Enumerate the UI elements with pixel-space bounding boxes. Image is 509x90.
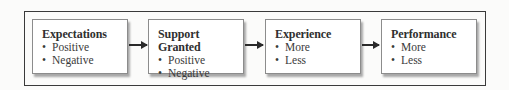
box-item: •Less [391,54,476,67]
bullet-icon: • [275,54,285,67]
arrow-right-icon [362,44,379,46]
box-expectations: Expectations •Positive •Negative [32,19,128,74]
box-title: Performance [391,28,476,41]
box-performance: Performance •More •Less [381,19,477,74]
box-item: •Positive [42,41,127,54]
box-support-granted: Support Granted •Positive •Negative [148,19,244,74]
bullet-icon: • [158,67,168,80]
bullet-icon: • [42,41,52,54]
box-experience: Experience •More •Less [265,19,361,74]
arrow-right-icon [129,44,147,46]
box-item: •More [275,41,360,54]
box-item: •Less [275,54,360,67]
bullet-icon: • [158,54,168,67]
box-item: •Positive [158,54,243,67]
box-item: •Negative [158,67,243,80]
box-title: Experience [275,28,360,41]
box-title: Expectations [42,28,127,41]
bullet-icon: • [42,54,52,67]
bullet-icon: • [391,54,401,67]
box-item: •More [391,41,476,54]
box-title: Support Granted [158,28,243,54]
box-item: •Negative [42,54,127,67]
bullet-icon: • [391,41,401,54]
arrow-right-icon [245,44,263,46]
bullet-icon: • [275,41,285,54]
